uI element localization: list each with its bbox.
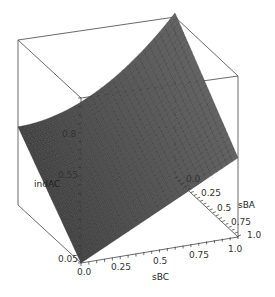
x-tick-1.0: 1.0: [228, 244, 243, 254]
x-tick-0.25: 0.25: [111, 262, 131, 272]
y-tick-0.5: 0.5: [217, 203, 231, 213]
y-tick-0.25: 0.25: [201, 188, 221, 198]
y-tick-1.0: 1.0: [247, 230, 262, 240]
z-tick-0.8: 0.8: [62, 129, 77, 139]
z-tick-0.55: 0.55: [58, 170, 78, 180]
y-axis-label: sBA: [238, 200, 256, 210]
z-tick-0.05: 0.05: [58, 254, 78, 264]
x-tick-0: 0.0: [77, 267, 92, 277]
y-tick-0: 0.0: [186, 174, 201, 184]
x-tick-0.75: 0.75: [189, 250, 209, 260]
surface-plot: 0.8 0.55 0.05 indAC 0.0 0.25 0.5 0.75 1.…: [0, 0, 275, 297]
z-axis-label: indAC: [34, 179, 60, 189]
x-tick-0.5: 0.5: [153, 256, 167, 266]
surface-mesh: [18, 13, 238, 263]
y-tick-0.75: 0.75: [231, 217, 251, 227]
x-axis-label: sBC: [152, 272, 169, 282]
